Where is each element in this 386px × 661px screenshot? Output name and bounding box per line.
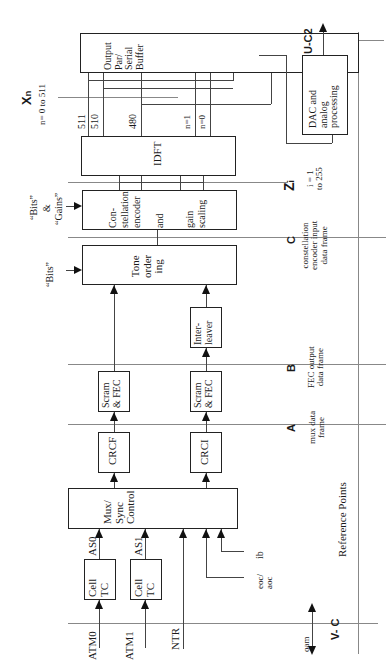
constellation-line-4: and bbox=[155, 214, 166, 228]
ref-c-label: C bbox=[286, 236, 298, 244]
ntr-label: NTR bbox=[170, 628, 182, 650]
ref-uc2-label: U-C2 bbox=[303, 28, 315, 54]
crci-scram-arrow-icon bbox=[202, 412, 210, 421]
ref-c-desc: constellation encoder input data frame bbox=[301, 221, 329, 270]
inter-tone-arrow-icon bbox=[202, 285, 210, 294]
atm1-arrow-icon bbox=[141, 600, 149, 609]
ntr-arrow-icon bbox=[179, 529, 187, 538]
ref-zi-label: Zi bbox=[282, 180, 297, 191]
bits-gains-label-2: & bbox=[42, 204, 53, 212]
bus-v-1 bbox=[233, 73, 234, 81]
connector-ce-idft-1 bbox=[119, 176, 120, 190]
scrami-inter-arrow-icon bbox=[202, 348, 210, 357]
crcf-scram-arrow-icon bbox=[110, 412, 118, 421]
ref-xn-desc: n= 0 to 511 bbox=[38, 84, 47, 125]
connector-ce-idft-h bbox=[119, 182, 203, 183]
idft-out-0-label: n=0 bbox=[198, 115, 207, 129]
buf-dac-1 bbox=[286, 55, 287, 143]
buf-dac-4 bbox=[332, 135, 333, 143]
ref-vc-label: V- C bbox=[330, 619, 342, 640]
ntr-line bbox=[183, 529, 184, 649]
atm1-label: ATM1 bbox=[124, 631, 136, 660]
uc2-arrow-icon bbox=[319, 23, 327, 32]
idft-out-511-label: 511 bbox=[77, 114, 88, 129]
ref-b-label: B bbox=[286, 364, 298, 372]
dac-out-line bbox=[323, 30, 324, 55]
idft-label: IDFT bbox=[152, 142, 164, 166]
ib-line-h bbox=[221, 551, 244, 552]
ref-xn-label: Xn bbox=[18, 91, 35, 105]
cell-tc-1-label: Cell TC bbox=[133, 579, 156, 597]
bus-h-3 bbox=[141, 104, 271, 105]
ref-line-a bbox=[68, 424, 386, 425]
eoc-line-h bbox=[206, 577, 244, 578]
ref-line-xn bbox=[58, 97, 178, 98]
scram-fec-interleaved-label: Scram & FEC bbox=[193, 379, 214, 408]
constellation-line-6: scaling bbox=[197, 200, 208, 228]
constellation-line-3: encoder bbox=[132, 196, 143, 228]
ib-label: ib bbox=[255, 551, 266, 559]
scramf-tone-line bbox=[114, 285, 115, 371]
atm0-label: ATM0 bbox=[87, 631, 99, 660]
bits-label: “Bits” bbox=[45, 262, 56, 287]
bus-h-1 bbox=[88, 80, 233, 81]
atm0-arrow-icon bbox=[95, 600, 103, 609]
constellation-line-1: Con- bbox=[108, 208, 119, 228]
scramf-tone-arrow-icon bbox=[110, 285, 118, 294]
ref-zi-sub: i bbox=[286, 180, 296, 183]
bus-v-3 bbox=[271, 73, 272, 104]
bus-h-2 bbox=[103, 88, 233, 89]
crc-fast-label: CRCF bbox=[107, 437, 119, 465]
ref-zi-main: Z bbox=[281, 182, 297, 191]
ref-xn-main: X bbox=[19, 96, 34, 105]
mux-sync-control-block bbox=[68, 488, 238, 529]
oam-up-arrow-icon bbox=[308, 603, 316, 612]
bits-gains-arrow-icon bbox=[74, 202, 82, 210]
eoc-aoc-label: eoc/ aoc bbox=[256, 574, 275, 589]
bits-arrow-icon bbox=[74, 266, 82, 274]
ref-a-label: A bbox=[286, 424, 298, 432]
mux-crci-arrow-icon bbox=[202, 473, 210, 482]
constellation-line-5: gain bbox=[185, 211, 196, 228]
tone-ordering-label: Tone order ing bbox=[130, 255, 165, 278]
bits-gains-label-1: “Bits” bbox=[29, 195, 40, 220]
output-buffer-label: Output Par/ Serial Buffer bbox=[103, 42, 145, 70]
ref-xn-sub: n bbox=[23, 91, 33, 97]
eoc-arrow-icon bbox=[202, 529, 210, 538]
crc-interleaved-label: CRCI bbox=[199, 439, 211, 465]
reference-points-border bbox=[358, 32, 359, 654]
idft-out-510-label: 510 bbox=[90, 114, 101, 129]
mux-crcf-arrow-icon bbox=[110, 473, 118, 482]
bits-gains-label-3: “Gains” bbox=[54, 193, 65, 225]
ref-a-desc: mux data frame bbox=[308, 411, 327, 444]
connector-ce-idft-4 bbox=[203, 176, 204, 190]
dac-label: DAC and analog processing bbox=[308, 85, 340, 128]
idft-out-510 bbox=[103, 73, 104, 136]
as1-label: AS1 bbox=[133, 536, 145, 556]
reference-points-title: Reference Points bbox=[337, 482, 349, 557]
ref-line-c bbox=[68, 237, 386, 238]
ref-b-desc: FEC output data frame bbox=[307, 346, 326, 388]
interleaver-label: Inter- leaver bbox=[193, 321, 214, 345]
buf-dac-3 bbox=[286, 143, 332, 144]
as0-label: AS0 bbox=[87, 536, 99, 556]
ib-arrow-icon bbox=[217, 529, 225, 538]
ref-line-b bbox=[68, 364, 386, 365]
tone-ce-line bbox=[157, 230, 158, 245]
idft-out-480-label: 480 bbox=[128, 114, 139, 129]
idft-out-1-label: n=1 bbox=[183, 115, 192, 129]
constellation-line-2: stellation bbox=[120, 191, 131, 228]
cell-tc-0-label: Cell TC bbox=[87, 579, 110, 597]
oam-line bbox=[312, 609, 313, 651]
scram-fec-fast-label: Scram & FEC bbox=[101, 379, 122, 408]
connector-ce-idft-3 bbox=[180, 176, 181, 190]
oam-label: oam bbox=[302, 637, 311, 653]
buf-dac-2 bbox=[259, 55, 286, 56]
connector-ce-idft-2 bbox=[141, 176, 142, 190]
mux-sync-control-label: Mux/ Sync Control bbox=[102, 490, 137, 524]
ref-zi-desc: i = 1 to 255 bbox=[306, 167, 325, 190]
